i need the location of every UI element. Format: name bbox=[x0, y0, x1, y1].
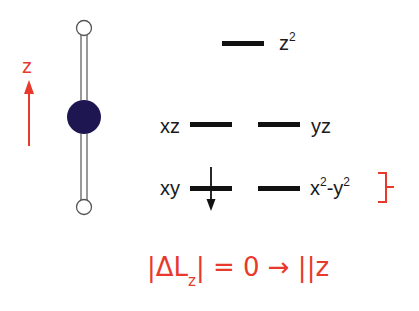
selection-rule: |ΔLz| = 0 → ||z bbox=[147, 254, 329, 280]
bond-bottom bbox=[81, 134, 87, 200]
label-xz: xz bbox=[160, 116, 180, 136]
degenerate-bracket-icon bbox=[378, 173, 394, 202]
parallel-z: ||z bbox=[290, 252, 329, 282]
orbital-splitting-diagram: z z2 xz yz bbox=[0, 0, 419, 311]
ligand-atom-bottom bbox=[77, 200, 92, 215]
label-x2y2-sup-a: 2 bbox=[320, 175, 327, 189]
level-xy bbox=[190, 186, 232, 191]
label-z2: z2 bbox=[279, 33, 296, 53]
label-z2-sup: 2 bbox=[289, 30, 296, 44]
label-xy: xy bbox=[160, 178, 180, 198]
label-x2-y2: x2-y2 bbox=[310, 178, 350, 198]
right-arrow-icon: → bbox=[268, 252, 290, 282]
label-x2y2-y: -y bbox=[327, 177, 344, 199]
level-xz bbox=[190, 122, 232, 127]
delta-L: ΔL bbox=[156, 252, 188, 282]
equals-zero: = 0 bbox=[205, 252, 268, 282]
subscript-z: z bbox=[188, 272, 196, 290]
bond-top bbox=[81, 35, 87, 100]
abs-open: | bbox=[147, 252, 156, 282]
central-metal-atom bbox=[67, 100, 101, 134]
label-yz: yz bbox=[311, 116, 331, 136]
ligand-atom-top bbox=[77, 21, 92, 36]
label-z2-base: z bbox=[279, 32, 289, 54]
z-axis-arrow-icon bbox=[24, 80, 34, 146]
level-z2 bbox=[222, 41, 264, 46]
label-x2y2-sup-b: 2 bbox=[343, 175, 350, 189]
abs-close: | bbox=[196, 252, 205, 282]
level-x2-y2 bbox=[258, 186, 300, 191]
level-yz bbox=[258, 122, 300, 127]
label-x2y2-x: x bbox=[310, 177, 320, 199]
